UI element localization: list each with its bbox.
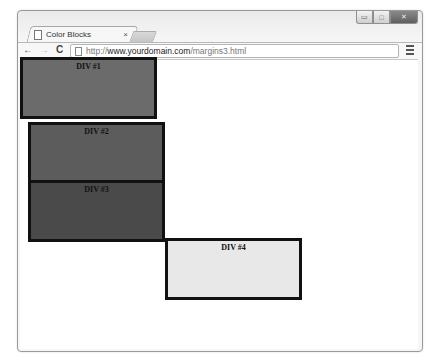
tab-title: Color Blocks [46,30,123,39]
minimize-icon: ▭ [361,13,368,21]
reload-icon[interactable]: C [56,44,63,55]
block-label: DIV #1 [23,62,154,71]
window-controls: ▭ □ ✕ [356,11,418,24]
div-block-1: DIV #1 [20,57,157,119]
back-arrow-icon[interactable]: ← [23,44,33,55]
page-icon [75,47,82,56]
page-icon [34,30,42,40]
div-block-4: DIV #4 [165,238,302,300]
minimize-button[interactable]: ▭ [356,11,373,24]
div-block-2: DIV #2 [28,122,165,184]
tab-close-icon[interactable]: × [123,30,128,39]
maximize-button[interactable]: □ [373,11,390,24]
block-label: DIV #3 [31,185,162,194]
tab-color-blocks[interactable]: Color Blocks × [32,26,132,43]
div-block-3: DIV #3 [28,180,165,242]
url-domain: www.yourdomain.com [107,46,190,56]
forward-arrow-icon[interactable]: → [39,44,49,55]
block-label: DIV #2 [31,127,162,136]
url-scheme: http:// [86,46,107,56]
wrench-menu-icon[interactable] [406,45,416,55]
block-label: DIV #4 [168,243,299,252]
close-icon: ✕ [401,13,407,21]
maximize-icon: □ [379,14,383,21]
close-window-button[interactable]: ✕ [390,11,418,24]
url-path: /margins3.html [190,46,246,56]
address-bar[interactable]: http:// www.yourdomain.com /margins3.htm… [70,44,399,58]
